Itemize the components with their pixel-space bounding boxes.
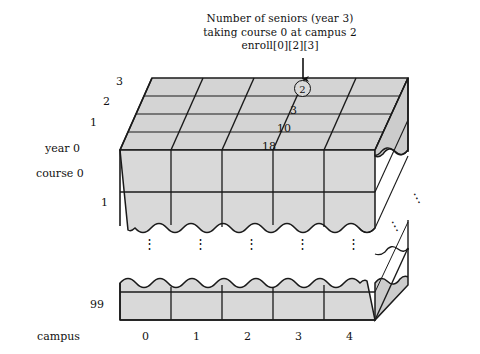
course-tick-99: 99 — [90, 298, 104, 311]
cell-value-year2: 3 — [290, 104, 297, 117]
campus-tick-2: 2 — [244, 330, 251, 343]
year-tick-3: 3 — [116, 75, 123, 88]
callout-annotation: Number of seniors (year 3) taking course… — [170, 12, 390, 53]
ellipsis-column-1: ⋮ — [194, 236, 207, 251]
campus-tick-0: 0 — [142, 330, 149, 343]
cell-value-year1: 10 — [277, 122, 291, 135]
campus-tick-1: 1 — [193, 330, 200, 343]
callout-line-3: enroll[0][2][3] — [170, 39, 390, 53]
cuboid-body — [120, 78, 408, 320]
diagram-stage: Number of seniors (year 3) taking course… — [0, 0, 480, 354]
course-tick-0: course 0 — [36, 167, 84, 180]
highlighted-cell-value: 2 — [294, 80, 311, 97]
campus-tick-4: 4 — [346, 330, 353, 343]
callout-line-1: Number of seniors (year 3) — [170, 12, 390, 26]
ellipsis-column-2: ⋮ — [245, 236, 258, 251]
year-tick-1: 1 — [90, 116, 97, 129]
ellipsis-column-0: ⋮ — [143, 236, 156, 251]
year-tick-2: 2 — [103, 95, 110, 108]
callout-line-2: taking course 0 at campus 2 — [170, 26, 390, 40]
cell-value-year0: 18 — [262, 140, 276, 153]
ellipsis-column-3: ⋮ — [296, 236, 309, 251]
front-face-lower — [120, 279, 375, 321]
ellipsis-column-4: ⋮ — [347, 236, 360, 251]
year-axis-label: year 0 — [45, 142, 80, 155]
course-tick-1: 1 — [101, 196, 108, 209]
campus-axis-label: campus — [37, 330, 80, 343]
front-face-upper — [120, 150, 375, 233]
campus-tick-3: 3 — [295, 330, 302, 343]
